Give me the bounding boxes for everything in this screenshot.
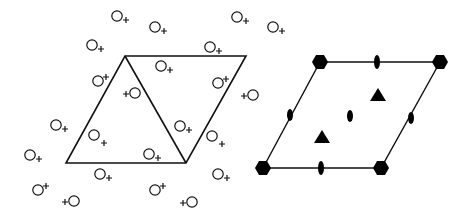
motif-circle-plus bbox=[123, 88, 140, 98]
plus-icon bbox=[101, 140, 107, 146]
plus-icon bbox=[279, 28, 285, 34]
motif-circle-plus bbox=[87, 40, 104, 52]
plus-icon bbox=[62, 199, 68, 205]
plus-icon bbox=[186, 127, 192, 133]
plus-icon bbox=[160, 183, 166, 189]
plus-icon bbox=[98, 46, 104, 52]
circle-icon bbox=[207, 131, 217, 141]
motif-pattern-panel bbox=[25, 11, 285, 207]
circle-icon bbox=[130, 88, 140, 98]
sixfold-axis-hexagon-icon bbox=[255, 161, 271, 175]
motif-circle-plus bbox=[213, 169, 230, 181]
plus-icon bbox=[161, 28, 167, 34]
motif-circle-plus bbox=[156, 61, 173, 73]
circle-icon bbox=[51, 120, 61, 130]
cell-diagonal bbox=[125, 56, 186, 163]
plus-icon bbox=[123, 91, 129, 97]
threefold-axis-triangle-icon bbox=[314, 130, 330, 143]
plus-icon bbox=[43, 183, 49, 189]
circle-icon bbox=[156, 61, 166, 71]
plus-icon bbox=[123, 17, 129, 23]
twofold-axis-oval-icon bbox=[318, 161, 324, 175]
sixfold-axis-hexagon-icon bbox=[432, 55, 448, 69]
plus-icon bbox=[167, 67, 173, 73]
motif-circle-plus bbox=[93, 74, 109, 86]
motif-circle-plus bbox=[62, 196, 79, 206]
motif-circle-plus bbox=[205, 42, 222, 54]
motif-circle-plus bbox=[232, 12, 249, 24]
plus-icon bbox=[62, 126, 68, 132]
circle-icon bbox=[213, 169, 223, 179]
circle-icon bbox=[150, 22, 160, 32]
circle-icon bbox=[248, 90, 258, 100]
plus-icon bbox=[216, 48, 222, 54]
twofold-axis-oval-icon bbox=[347, 110, 353, 122]
circle-icon bbox=[150, 185, 160, 195]
twofold-axis-oval-icon bbox=[408, 112, 414, 124]
motif-circle-plus bbox=[150, 183, 166, 195]
twofold-axis-oval-icon bbox=[374, 55, 380, 69]
circle-icon bbox=[232, 12, 242, 22]
motif-circle-plus bbox=[51, 120, 68, 132]
circle-icon bbox=[87, 40, 97, 50]
plus-icon bbox=[180, 200, 186, 206]
circle-icon bbox=[25, 150, 35, 160]
circle-icon bbox=[144, 149, 154, 159]
motif-circle-plus bbox=[175, 121, 192, 133]
circle-icon bbox=[187, 197, 197, 207]
sixfold-axis-hexagon-icon bbox=[312, 55, 328, 69]
circle-icon bbox=[205, 42, 215, 52]
circle-icon bbox=[175, 121, 185, 131]
circle-icon bbox=[268, 22, 278, 32]
motif-circle-plus bbox=[33, 183, 49, 195]
plus-icon bbox=[223, 76, 229, 82]
plus-icon bbox=[219, 141, 225, 147]
plus-icon bbox=[241, 93, 247, 99]
symmetry-diagram bbox=[0, 0, 471, 219]
plus-icon bbox=[224, 175, 230, 181]
plus-icon bbox=[103, 74, 109, 80]
motif-circle-plus bbox=[207, 131, 225, 147]
plus-icon bbox=[36, 156, 42, 162]
motif-circle-plus bbox=[180, 197, 197, 207]
circle-icon bbox=[95, 169, 105, 179]
plus-icon bbox=[155, 155, 161, 161]
plus-icon bbox=[243, 18, 249, 24]
motif-circle-plus bbox=[89, 130, 107, 146]
circle-icon bbox=[93, 76, 103, 86]
threefold-axis-triangle-icon bbox=[370, 88, 386, 101]
circle-icon bbox=[89, 130, 99, 140]
circle-icon bbox=[112, 11, 122, 21]
motif-circle-plus bbox=[25, 150, 42, 162]
symmetry-elements-panel bbox=[255, 55, 448, 175]
circle-icon bbox=[33, 185, 43, 195]
motif-circle-plus bbox=[268, 22, 285, 34]
motif-circle-plus bbox=[95, 169, 112, 181]
twofold-axis-oval-icon bbox=[287, 109, 293, 121]
circle-icon bbox=[213, 78, 223, 88]
circle-icon bbox=[69, 196, 79, 206]
motif-circle-plus bbox=[112, 11, 129, 23]
motif-circle-plus bbox=[213, 76, 229, 88]
plus-icon bbox=[106, 175, 112, 181]
sixfold-axis-hexagon-icon bbox=[373, 161, 389, 175]
motif-circle-plus bbox=[150, 22, 167, 34]
motif-circle-plus bbox=[241, 90, 258, 100]
motif-circle-plus bbox=[144, 149, 161, 161]
